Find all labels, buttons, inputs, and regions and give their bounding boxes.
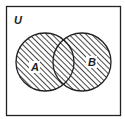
venn-diagram: U A B xyxy=(0,0,125,119)
set-b-label: B xyxy=(88,56,96,68)
set-a-label: A xyxy=(30,61,39,73)
universe-label: U xyxy=(14,14,23,26)
